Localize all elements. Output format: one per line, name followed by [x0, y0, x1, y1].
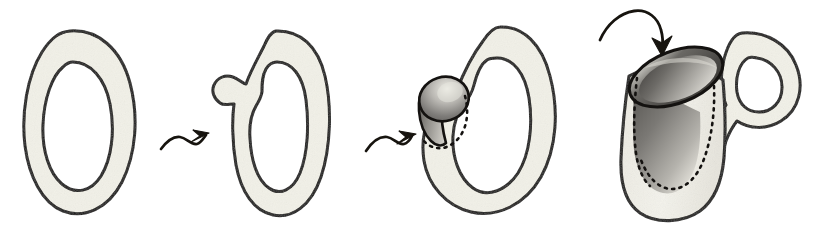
stage-3-torus-with-depression: [414, 27, 556, 213]
deformation-arrow-3: [600, 11, 672, 56]
dimpled-torus-body: [213, 31, 330, 216]
deformation-arrow-2: [366, 131, 416, 151]
deformation-arrow-1: [161, 130, 209, 149]
torus-body: [24, 31, 135, 214]
stage-1-torus: [24, 31, 135, 214]
stage-2-torus-with-dimple: [213, 31, 330, 216]
stage-4-coffee-mug: [621, 33, 800, 221]
topology-figure: Topological deformation of a torus into …: [0, 0, 823, 233]
figure-canvas: [0, 0, 823, 233]
arrow-3-shaft: [600, 11, 663, 48]
